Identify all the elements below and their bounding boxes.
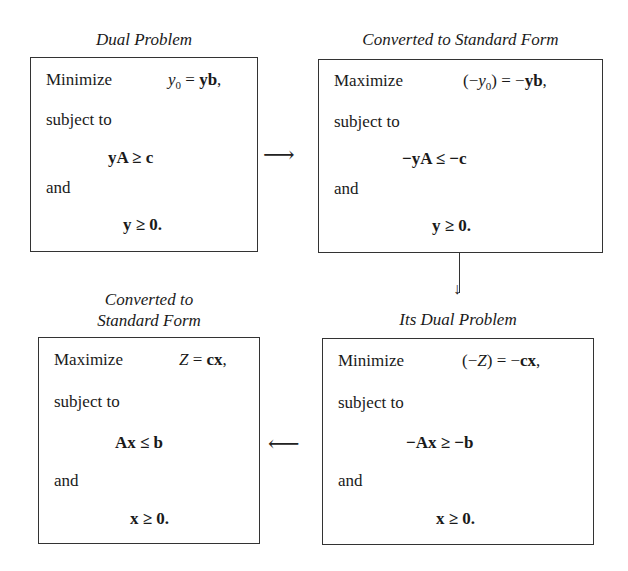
title-line-1: Converted to [38,289,260,310]
constraint-expression: −Ax ≥ −b [406,433,473,453]
objective-verb: Maximize [334,71,403,91]
subject-to-label: subject to [46,110,112,130]
subject-to-label: subject to [54,392,120,412]
subject-to-label: subject to [338,393,404,413]
constraint-expression: −yA ≤ −c [402,149,467,169]
subject-to-label: subject to [334,112,400,132]
primal-standard-form-title: Converted to Standard Form [38,289,260,331]
constraint-expression: yA ≥ c [108,148,153,168]
objective-verb: Minimize [46,70,112,89]
and-label: and [54,471,79,491]
arrow-left-icon: ⟵ [268,431,300,457]
arrow-right-icon: ⟶ [263,142,295,168]
its-dual-problem-title: Its Dual Problem [322,310,594,330]
objective-verb: Minimize [338,351,404,371]
nonnegativity-expression: x ≥ 0. [436,509,475,529]
its-dual-problem-box: Minimize (−Z) = −cx, subject to −Ax ≥ −b… [322,338,594,545]
nonnegativity-expression: y ≥ 0. [432,216,471,236]
dual-problem-title: Dual Problem [30,30,258,50]
title-line-2: Standard Form [38,310,260,331]
nonnegativity-expression: x ≥ 0. [130,509,169,529]
constraint-expression: Ax ≤ b [115,433,163,453]
and-label: and [46,178,71,198]
nonnegativity-expression: y ≥ 0. [123,215,162,235]
and-label: and [334,179,359,199]
objective-expression: (−y0) = −yb, [463,71,547,92]
arrow-down-icon: ↓ [453,280,461,298]
objective-expression: (−Z) = −cx, [462,351,540,371]
objective-expression: y0 = yb, [168,70,221,91]
and-label: and [338,471,363,491]
dual-problem-box: Minimize y0 = yb, subject to yA ≥ c and … [30,57,258,252]
dual-standard-form-title: Converted to Standard Form [318,30,603,50]
objective-verb: Maximize [54,350,123,370]
dual-standard-form-box: Maximize (−y0) = −yb, subject to −yA ≤ −… [318,59,603,253]
primal-standard-form-box: Maximize Z = cx, subject to Ax ≤ b and x… [38,337,260,544]
objective-row: Minimize [46,70,112,90]
objective-expression: Z = cx, [179,350,227,370]
